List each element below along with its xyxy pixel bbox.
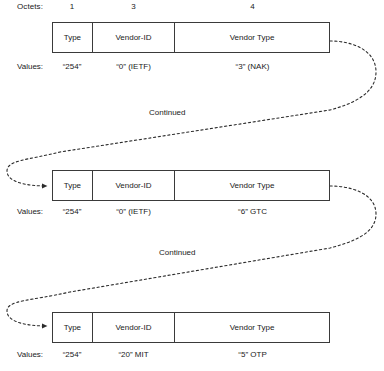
packet-row-2: Type Vendor-ID Vendor Type [52, 170, 330, 201]
field-vendor-type-3: Vendor Type [175, 313, 329, 342]
octets-row-label: Octets: [17, 2, 43, 11]
continued-label-2: Continued [157, 248, 197, 257]
value-vendor-id-2: “0” (IETF) [92, 207, 175, 216]
field-type-3: Type [53, 313, 93, 342]
value-type-1: “254” [52, 62, 92, 71]
octet-count-type: 1 [52, 2, 92, 11]
field-vendor-type-2: Vendor Type [175, 171, 329, 200]
value-type-2: “254” [52, 207, 92, 216]
field-type-1: Type [53, 23, 93, 52]
packet-row-3: Type Vendor-ID Vendor Type [52, 312, 330, 343]
value-vendor-id-3: “20” MIT [92, 350, 175, 359]
value-vendor-type-2: “6” GTC [175, 207, 330, 216]
field-vendor-id-1: Vendor-ID [93, 23, 175, 52]
values-row-label-3: Values: [17, 350, 43, 359]
octet-count-vendor-type: 4 [175, 2, 330, 11]
values-row-label-2: Values: [17, 207, 43, 216]
value-vendor-id-1: “0” (IETF) [92, 62, 175, 71]
field-type-2: Type [53, 171, 93, 200]
value-type-3: “254” [52, 350, 92, 359]
octet-count-vendor-id: 3 [92, 2, 175, 11]
continued-label-1: Continued [147, 108, 187, 117]
value-vendor-type-3: “5” OTP [175, 350, 330, 359]
packet-format-diagram: Octets: 1 3 4 Type Vendor-ID Vendor Type… [0, 0, 384, 371]
field-vendor-id-3: Vendor-ID [93, 313, 175, 342]
value-vendor-type-1: “3” (NAK) [175, 62, 330, 71]
packet-row-1: Type Vendor-ID Vendor Type [52, 22, 330, 53]
values-row-label-1: Values: [17, 62, 43, 71]
field-vendor-id-2: Vendor-ID [93, 171, 175, 200]
field-vendor-type-1: Vendor Type [175, 23, 329, 52]
